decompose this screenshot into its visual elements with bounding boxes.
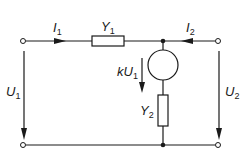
u1-arrowhead-icon — [21, 128, 27, 140]
label-y1: Y1 — [101, 19, 115, 36]
label-ku1: kU1 — [117, 64, 138, 81]
i2-arrow-icon — [181, 38, 193, 44]
u2-arrowhead-icon — [216, 128, 222, 140]
y2-admittance — [158, 95, 168, 126]
label-i2: I2 — [186, 20, 195, 37]
terminal-top-right — [216, 39, 221, 44]
y1-admittance — [92, 36, 124, 46]
junction-top — [161, 39, 166, 44]
label-i1: I1 — [53, 20, 62, 37]
terminal-top-left — [21, 39, 26, 44]
ku1-arrowhead-icon — [139, 82, 145, 93]
label-u2: U2 — [225, 84, 239, 101]
circuit-diagram: I1 Y1 I2 kU1 Y2 U1 U2 — [0, 0, 245, 151]
terminal-bottom-left — [21, 143, 26, 148]
label-y2: Y2 — [140, 103, 154, 120]
junction-bottom — [161, 143, 166, 148]
terminal-bottom-right — [216, 143, 221, 148]
label-u1: U1 — [6, 84, 20, 101]
controlled-source-icon — [148, 50, 178, 80]
i1-arrow-icon — [54, 38, 66, 44]
